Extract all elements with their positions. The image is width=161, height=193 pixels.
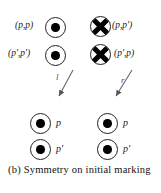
top-left-place-1 [45,17,66,38]
bottom-right-place-2 [97,139,118,160]
top-left-place-1-label: (p,p) [15,21,33,31]
token-dot [36,145,45,154]
bottom-left-place-2 [30,139,51,160]
bottom-right-place-1 [97,113,118,134]
bottom-left-place-1-label: p [56,118,61,128]
token-dot [51,51,60,60]
figure-caption: (b) Symmetry on initial marking [8,163,158,176]
token-dot [103,145,112,154]
cross-x-icon [91,45,110,64]
arrow-l-label: l [56,73,59,82]
bottom-right-place-2-label: p' [123,144,130,154]
arrow-r-label: r [121,76,125,85]
top-left-place-2-label: (p',p') [8,49,30,59]
token-dot [51,23,60,32]
arrow-l-line [59,70,73,96]
cross-x-icon [91,17,110,36]
token-dot [103,119,112,128]
bottom-left-place-1 [30,113,51,134]
bottom-right-place-1-label: p [123,118,128,128]
top-right-place-2 [90,44,111,65]
token-dot [36,119,45,128]
bottom-left-place-2-label: p' [56,144,63,154]
top-right-place-2-label: (p',p) [114,49,134,59]
top-left-place-2 [45,45,66,66]
symmetry-figure: (p,p) (p',p') (p,p') (p',p) l r p [0,0,161,193]
top-right-place-1 [90,16,111,37]
top-right-place-1-label: (p,p') [112,21,132,31]
